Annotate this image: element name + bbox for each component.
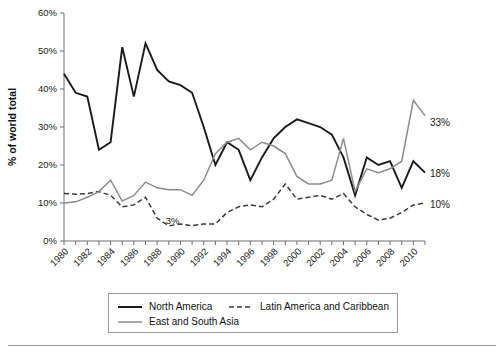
- y-tick-label: 60%: [38, 7, 58, 18]
- y-tick-label: 50%: [38, 45, 58, 56]
- asia-end-label: 33%: [430, 117, 450, 128]
- latin-america-end-label: 10%: [430, 199, 450, 210]
- series-line-east-and-south-asia: [64, 100, 425, 203]
- legend-label-north-america: North America: [149, 301, 212, 312]
- series-line-north-america: [64, 43, 425, 195]
- x-tick-label: 2006: [350, 246, 373, 269]
- x-tick-label: 1992: [187, 246, 210, 269]
- legend-item-latin-america[interactable]: Latin America and Caribbean: [228, 301, 389, 312]
- y-tick-label: 20%: [38, 159, 58, 170]
- series-lines: [64, 43, 425, 225]
- x-tick-label: 1990: [164, 246, 187, 269]
- legend-label-latin-america: Latin America and Caribbean: [260, 301, 389, 312]
- x-tick-label: 2002: [304, 246, 327, 269]
- north-america-end-label: 18%: [430, 168, 450, 179]
- footer-divider: [8, 345, 496, 346]
- x-tick-label: 2008: [374, 246, 397, 269]
- x-tick-label: 1996: [234, 246, 257, 269]
- x-tick-label: 2010: [397, 246, 420, 269]
- y-axis-title: % of world total: [6, 88, 18, 166]
- x-tick-label: 1988: [141, 246, 164, 269]
- legend-swatch-solid-black-icon: [117, 302, 143, 312]
- y-tick-label: 40%: [38, 83, 58, 94]
- legend-label-east-south-asia: East and South Asia: [149, 316, 239, 327]
- y-tick-label: 30%: [38, 121, 58, 132]
- x-tick-label: 1982: [71, 246, 94, 269]
- legend-item-north-america[interactable]: North America: [117, 301, 228, 312]
- legend: North America Latin America and Caribbea…: [108, 293, 398, 333]
- x-tick-label: 1980: [48, 246, 71, 269]
- x-tick-label: 1984: [94, 246, 117, 269]
- y-tick-label: 0%: [43, 235, 57, 246]
- x-tick-label: 1986: [118, 246, 141, 269]
- legend-item-east-south-asia[interactable]: East and South Asia: [117, 316, 277, 327]
- figure-root: 0%10%20%30%40%50%60% 1980198219841986198…: [0, 0, 504, 356]
- legend-row-1: North America Latin America and Caribbea…: [117, 299, 389, 314]
- x-axis: 1980198219841986198819901992199419961998…: [48, 241, 425, 268]
- latin-america-min-label: 3%: [166, 215, 180, 226]
- y-axis: 0%10%20%30%40%50%60%: [38, 7, 64, 246]
- legend-row-2: East and South Asia: [117, 314, 389, 329]
- x-tick-label: 1994: [211, 246, 234, 269]
- legend-swatch-solid-gray-icon: [117, 317, 143, 327]
- legend-swatch-dashed-icon: [228, 302, 254, 312]
- series-line-latin-america-and-caribbean: [64, 184, 425, 226]
- x-tick-label: 2000: [281, 246, 304, 269]
- y-tick-label: 10%: [38, 197, 58, 208]
- line-chart-svg: 0%10%20%30%40%50%60% 1980198219841986198…: [0, 0, 504, 300]
- x-tick-label: 1998: [257, 246, 280, 269]
- x-tick-label: 2004: [327, 246, 350, 269]
- chart-plot-area: 0%10%20%30%40%50%60% 1980198219841986198…: [0, 0, 504, 300]
